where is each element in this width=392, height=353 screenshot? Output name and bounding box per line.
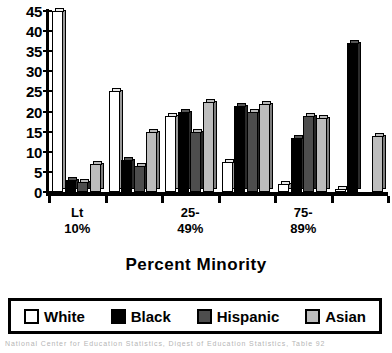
bar-white (278, 184, 289, 192)
bar-asian (372, 136, 383, 192)
bar-group (332, 0, 389, 192)
y-tick-mark (43, 90, 52, 92)
chart-legend: WhiteBlackHispanicAsian (8, 298, 382, 334)
x-tick-mark (105, 196, 108, 203)
bar-asian (316, 118, 327, 192)
legend-label: White (44, 308, 85, 325)
bar-front-face (260, 105, 269, 191)
bar-hispanic (134, 166, 145, 192)
y-tick-mark (43, 70, 52, 72)
bar-white (109, 91, 120, 192)
bar-side-face (357, 42, 361, 189)
bar-asian (259, 104, 270, 192)
legend-label: Hispanic (217, 308, 280, 325)
legend-item-hispanic[interactable]: Hispanic (197, 308, 280, 325)
bar-top-face (338, 186, 347, 190)
x-tick-label-line1: 25- (162, 205, 219, 221)
bar-top-face (68, 177, 77, 181)
bar-white (222, 162, 233, 192)
bar-groups (49, 0, 388, 192)
bar-top-face (281, 181, 290, 185)
bar-top-face (124, 157, 133, 161)
bar-front-face (235, 107, 244, 191)
bar-black (291, 138, 302, 192)
y-tick-label: 10 (8, 144, 42, 159)
bar-hispanic (77, 182, 88, 192)
x-tick-label-line2: 89% (275, 221, 332, 237)
bar-front-face (191, 133, 200, 191)
legend-item-asian[interactable]: Asian (305, 308, 366, 325)
x-tick-mark (218, 196, 221, 203)
y-tick-label: 5 (8, 164, 42, 179)
legend-label: Black (131, 308, 171, 325)
y-tick-mark (43, 111, 52, 113)
bar-hispanic (247, 112, 258, 192)
bar-top-face (350, 40, 359, 44)
bar-top-face (55, 8, 64, 12)
bar-front-face (53, 12, 62, 191)
y-axis-tick-labels: 454035302520151050 (4, 0, 42, 200)
bar-top-face (306, 113, 315, 117)
bar-front-face (91, 165, 100, 191)
x-tick-label-line1: Lt (49, 205, 106, 221)
bar-front-face (292, 139, 301, 191)
y-tick-label: 30 (8, 64, 42, 79)
source-annotation: National Center for Education Statistics… (5, 340, 389, 347)
bar-top-face (250, 109, 259, 113)
x-tick-label-line2: 10% (49, 221, 106, 237)
bar-front-face (348, 44, 357, 191)
bar-front-face (223, 163, 232, 191)
y-tick-mark (43, 131, 52, 133)
bar-front-face (279, 185, 288, 191)
legend-swatch-asian (305, 309, 320, 324)
legend-swatch-white (24, 309, 39, 324)
bar-asian (203, 102, 214, 193)
x-tick-label-line1: 75- (275, 205, 332, 221)
bar-front-face (373, 137, 382, 191)
bar-front-face (248, 113, 257, 191)
x-axis-title: Percent Minority (0, 255, 392, 275)
legend-swatch-hispanic (197, 309, 212, 324)
bar-side-face (213, 101, 217, 190)
bar-front-face (78, 183, 87, 191)
bar-black (347, 43, 358, 192)
bar-top-face (375, 133, 384, 137)
bar-asian (90, 164, 101, 192)
legend-label: Asian (325, 308, 366, 325)
plot-area: 454035302520151050 (0, 0, 392, 200)
bar-top-face (149, 129, 158, 133)
bar-front-face (122, 161, 131, 191)
bar-top-face (80, 179, 89, 183)
y-tick-label: 15 (8, 124, 42, 139)
bar-top-face (112, 88, 121, 92)
bar-front-face (204, 103, 213, 192)
bar-group (162, 0, 219, 192)
bar-white (335, 189, 346, 192)
bar-asian (146, 132, 157, 192)
bar-group (49, 0, 106, 192)
bar-group (219, 0, 276, 192)
x-tick-mark (274, 196, 277, 203)
x-axis-tick-labels: Lt10%25-49%75-89% (49, 205, 388, 249)
bar-top-face (237, 103, 246, 107)
legend-swatch-black (111, 309, 126, 324)
x-tick-label: Lt10% (49, 205, 106, 237)
bar-side-face (62, 10, 66, 189)
y-tick-mark (43, 30, 52, 32)
x-tick-mark (387, 196, 390, 203)
y-tick-label: 0 (8, 185, 42, 200)
bar-side-face (269, 103, 273, 189)
bar-top-face (181, 109, 190, 113)
legend-item-white[interactable]: White (24, 308, 85, 325)
y-tick-label: 40 (8, 24, 42, 39)
bar-front-face (304, 117, 313, 191)
x-tick-label: 25-49% (162, 205, 219, 237)
bar-front-face (66, 181, 75, 191)
bar-top-face (93, 161, 102, 165)
bar-black (178, 112, 189, 192)
bar-front-face (317, 119, 326, 191)
bar-black (65, 180, 76, 192)
bar-front-face (135, 167, 144, 191)
legend-item-black[interactable]: Black (111, 308, 171, 325)
bar-front-face (166, 117, 175, 191)
